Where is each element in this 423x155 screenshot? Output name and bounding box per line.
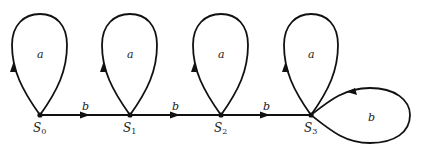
loop-b-s3 — [311, 88, 410, 143]
node-label-s1: S1 — [123, 121, 136, 136]
arrowhead-icon — [10, 62, 17, 72]
node-label-s3: S3 — [304, 121, 317, 136]
label-a-s2: a — [218, 48, 225, 61]
node-s1 — [127, 112, 132, 117]
arrowhead-icon — [191, 62, 198, 72]
node-s3 — [308, 112, 313, 117]
loop-a-s3 — [282, 14, 338, 115]
label-a-s0: a — [37, 48, 44, 61]
state-diagram: a a a a b b b b S0 S1 S2 S3 — [0, 0, 423, 155]
node-label-s2: S2 — [214, 121, 227, 136]
arrowhead-icon — [282, 62, 289, 72]
label-b-s0-s1: b — [82, 100, 89, 113]
label-a-s3: a — [308, 48, 315, 61]
loop-a-s0 — [10, 14, 67, 115]
label-a-s1: a — [127, 48, 134, 61]
label-b-s3-loop: b — [368, 111, 375, 124]
node-s0 — [37, 112, 42, 117]
label-b-s1-s2: b — [172, 100, 179, 113]
loop-a-s1 — [100, 14, 157, 115]
arrowhead-icon — [100, 62, 107, 72]
label-b-s2-s3: b — [263, 100, 270, 113]
node-label-s0: S0 — [33, 121, 46, 136]
node-s2 — [218, 112, 223, 117]
loop-a-s2 — [191, 14, 248, 115]
